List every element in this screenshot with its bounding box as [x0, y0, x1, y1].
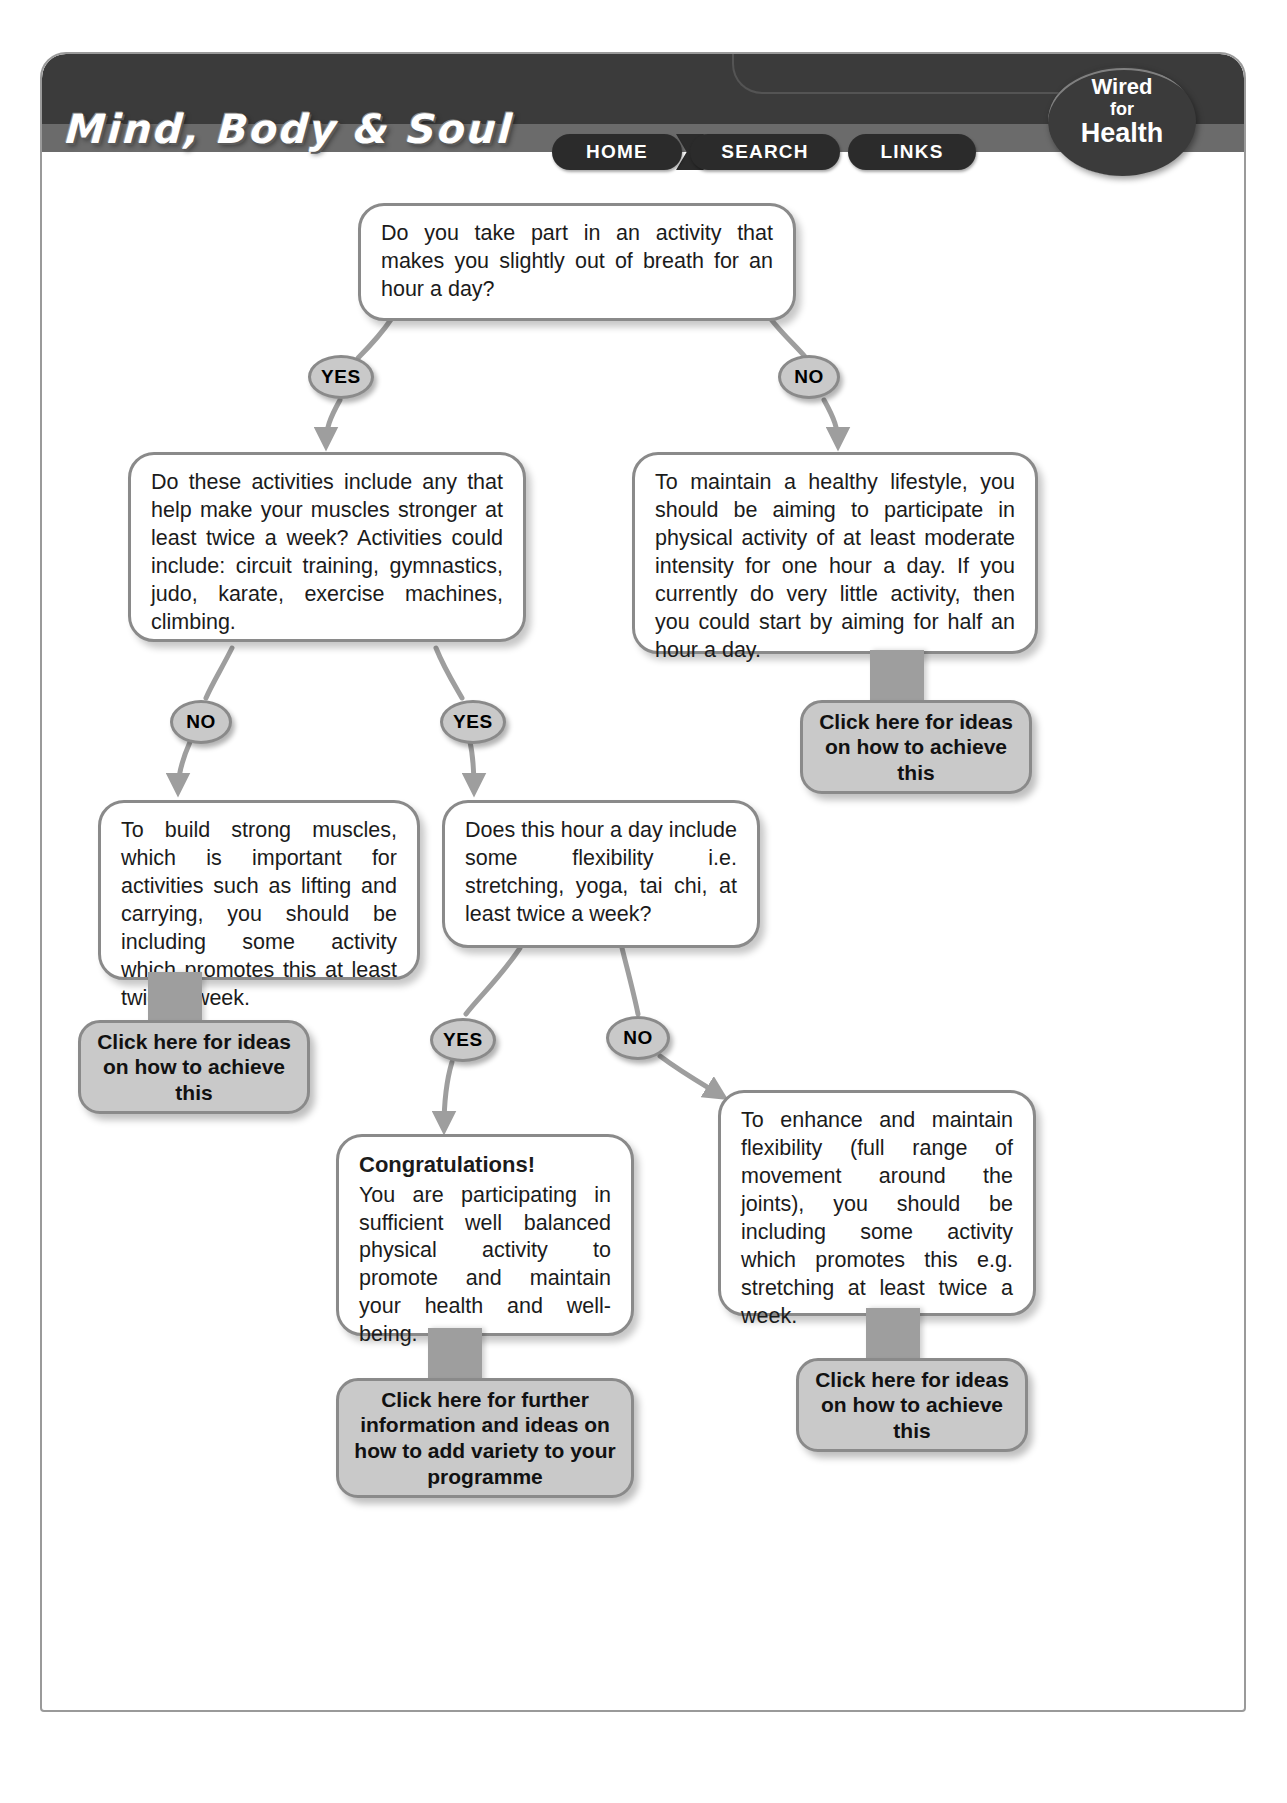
site-title-wordmark: Mind, Body & Soul	[64, 106, 515, 152]
logo-line-1: Wired	[1048, 76, 1196, 98]
info-box-strong-muscles[interactable]: To build strong muscles, which is import…	[98, 800, 420, 980]
wired-for-health-logo[interactable]: Wired for Health	[1048, 66, 1196, 176]
decision-no-q2[interactable]: NO	[170, 700, 232, 744]
logo-text: Wired for Health	[1048, 66, 1196, 147]
decision-yes-q1[interactable]: YES	[308, 355, 374, 399]
decision-no-q3[interactable]: NO	[606, 1016, 670, 1060]
logo-line-3: Health	[1048, 120, 1196, 147]
question-box-muscles[interactable]: Do these activities include any that hel…	[128, 452, 526, 642]
nav-item-search[interactable]: SEARCH	[690, 134, 840, 170]
info-box-flexibility[interactable]: To enhance and maintain flexibility (ful…	[718, 1090, 1036, 1316]
question-box-activity[interactable]: Do you take part in an activity that mak…	[358, 203, 796, 321]
header-seam-decoration	[732, 54, 1092, 94]
button-ideas-maintain[interactable]: Click here for ideas on how to achieve t…	[800, 700, 1032, 794]
question-box-flexibility[interactable]: Does this hour a day include some flexib…	[442, 800, 760, 948]
congratulations-text: You are participating in sufficient well…	[359, 1183, 611, 1347]
button-further-information[interactable]: Click here for further information and i…	[336, 1378, 634, 1498]
decision-yes-q3[interactable]: YES	[430, 1018, 496, 1062]
button-ideas-flexibility[interactable]: Click here for ideas on how to achieve t…	[796, 1358, 1028, 1452]
info-box-maintain-lifestyle[interactable]: To maintain a healthy lifestyle, you sho…	[632, 452, 1038, 654]
decision-no-q1[interactable]: NO	[778, 355, 840, 399]
decision-yes-q2[interactable]: YES	[440, 700, 506, 744]
page-root: Mind, Body & Soul HOME SEARCH LINKS Wire…	[0, 0, 1287, 1803]
logo-line-2: for	[1048, 100, 1196, 118]
nav-item-links[interactable]: LINKS	[848, 134, 976, 170]
congratulations-heading: Congratulations!	[359, 1151, 611, 1180]
button-ideas-muscles[interactable]: Click here for ideas on how to achieve t…	[78, 1020, 310, 1114]
nav-item-home[interactable]: HOME	[552, 134, 682, 170]
result-box-congratulations[interactable]: Congratulations! You are participating i…	[336, 1134, 634, 1336]
